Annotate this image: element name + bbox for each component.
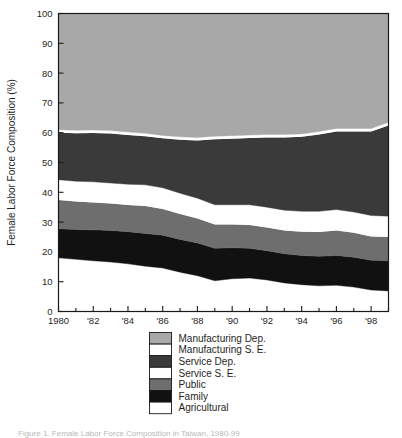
y-axis-title: Female Labor Force Composition (%) bbox=[6, 79, 17, 246]
legend-swatch-manufacturing-s-e bbox=[150, 344, 172, 356]
y-tick-label: 60 bbox=[42, 127, 53, 138]
legend-label-agricultural: Agricultural bbox=[179, 402, 229, 413]
legend-label-public: Public bbox=[179, 379, 206, 390]
y-tick-label: 70 bbox=[42, 97, 53, 108]
y-tick-label: 90 bbox=[42, 38, 53, 49]
stacked-area-chart: 0102030405060708090100Female Labor Force… bbox=[0, 0, 402, 438]
chart-legend: Manufacturing Dep.Manufacturing S. E.Ser… bbox=[150, 333, 267, 414]
figure-container: 0102030405060708090100Female Labor Force… bbox=[0, 0, 402, 438]
legend-swatch-service-s-e bbox=[150, 367, 172, 379]
x-tick-label: '98 bbox=[365, 315, 377, 326]
x-tick-label: '92 bbox=[261, 315, 273, 326]
y-tick-label: 80 bbox=[42, 68, 53, 79]
chart-bands bbox=[59, 14, 389, 312]
y-tick-label: 30 bbox=[42, 217, 53, 228]
x-tick-label: '90 bbox=[226, 315, 238, 326]
x-tick-label: '82 bbox=[87, 315, 99, 326]
x-tick-label: '96 bbox=[330, 315, 342, 326]
legend-swatch-service-dep bbox=[150, 356, 172, 368]
legend-label-manufacturing-s-e: Manufacturing S. E. bbox=[179, 344, 267, 355]
legend-swatch-public bbox=[150, 379, 172, 391]
legend-swatch-agricultural bbox=[150, 402, 172, 414]
x-tick-label: 1980 bbox=[48, 315, 69, 326]
y-tick-label: 20 bbox=[42, 246, 53, 257]
legend-label-manufacturing-dep: Manufacturing Dep. bbox=[179, 333, 266, 344]
y-tick-label: 50 bbox=[42, 157, 53, 168]
x-tick-label: '94 bbox=[295, 315, 307, 326]
legend-label-service-dep: Service Dep. bbox=[179, 356, 236, 367]
legend-swatch-manufacturing-dep bbox=[150, 333, 172, 345]
y-tick-label: 100 bbox=[37, 8, 53, 19]
figure-caption: Figure 1. Female Labor Force Composition… bbox=[18, 429, 388, 438]
legend-label-family: Family bbox=[179, 391, 208, 402]
x-tick-label: '84 bbox=[122, 315, 134, 326]
legend-swatch-family bbox=[150, 391, 172, 403]
y-tick-label: 40 bbox=[42, 187, 53, 198]
x-tick-label: '88 bbox=[191, 315, 203, 326]
y-tick-label: 10 bbox=[42, 276, 53, 287]
x-tick-label: '86 bbox=[157, 315, 169, 326]
legend-label-service-s-e: Service S. E. bbox=[179, 368, 237, 379]
area-band-manufacturing-dep bbox=[59, 14, 389, 138]
